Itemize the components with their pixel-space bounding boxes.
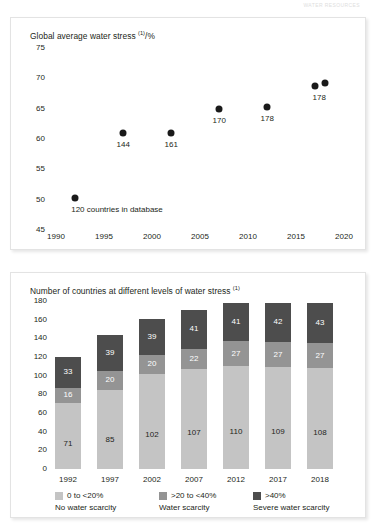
bar-segment-value: 43 <box>316 319 325 327</box>
bar-x-tick: 2012 <box>216 475 256 484</box>
scatter-title-text: Global average water stress <box>30 31 138 41</box>
scatter-point-label: 144 <box>117 140 130 149</box>
scatter-data-point <box>120 129 127 136</box>
legend-range-label: 0 to <20% <box>67 491 103 500</box>
bar-segment-value: 20 <box>148 360 157 368</box>
scatter-data-point <box>168 129 175 136</box>
bar-segment-value: 85 <box>106 436 115 444</box>
bar-segment: 22 <box>181 349 207 370</box>
scatter-chart-title: Global average water stress (1)/% <box>30 30 155 41</box>
bar-x-tick: 1997 <box>90 475 130 484</box>
bar-y-tick: 160 <box>21 315 47 324</box>
bar-y-tick: 0 <box>21 464 47 473</box>
bar-segment-value: 27 <box>274 351 283 359</box>
bar-segment-value: 41 <box>232 318 241 326</box>
legend-range-label: >20 to <40% <box>171 491 216 500</box>
scatter-y-tick: 55 <box>23 164 45 173</box>
bar-x-tick: 2002 <box>132 475 172 484</box>
bar-column: 1102741 <box>223 301 249 469</box>
bar-x-tick: 2018 <box>300 475 340 484</box>
bar-y-tick: 100 <box>21 371 47 380</box>
bar-segment: 85 <box>97 390 123 469</box>
legend-range-label: >40% <box>265 491 286 500</box>
bar-segment-value: 110 <box>230 428 243 436</box>
bar-segment-value: 39 <box>106 349 115 357</box>
bar-segment: 41 <box>181 310 207 348</box>
bar-segment: 42 <box>265 303 291 342</box>
bar-segment: 110 <box>223 366 249 469</box>
scatter-data-point <box>216 106 223 113</box>
bar-segment: 16 <box>55 388 81 403</box>
scatter-x-tick: 2005 <box>180 232 220 241</box>
scatter-x-tick: 2000 <box>132 232 172 241</box>
legend-category-label: Water scarcity <box>159 503 209 512</box>
bar-x-tick: 1992 <box>48 475 88 484</box>
bar-segment-value: 71 <box>64 440 73 448</box>
legend-color-swatch <box>55 492 63 500</box>
bar-segment: 27 <box>307 343 333 368</box>
bar-segment-value: 20 <box>106 376 115 384</box>
bar-y-tick: 180 <box>21 296 47 305</box>
bar-segment: 39 <box>139 319 165 355</box>
scatter-x-tick: 1990 <box>36 232 76 241</box>
bar-y-tick: 140 <box>21 333 47 342</box>
scatter-point-note: 120 countries in database <box>71 205 163 214</box>
scatter-data-point <box>264 104 271 111</box>
scatter-title-unit: /% <box>145 31 155 41</box>
bar-segment-value: 107 <box>187 429 200 437</box>
scatter-x-tick: 1995 <box>84 232 124 241</box>
bar-segment: 108 <box>307 368 333 469</box>
bar-column: 711633 <box>55 301 81 469</box>
legend-category-label: No water scarcity <box>55 503 116 512</box>
bar-segment: 43 <box>307 303 333 343</box>
bar-segment-value: 42 <box>274 318 283 326</box>
scatter-x-tick: 2020 <box>324 232 364 241</box>
bar-column: 1092742 <box>265 301 291 469</box>
bar-segment: 27 <box>265 342 291 367</box>
stacked-bar-chart-panel: Number of countries at different levels … <box>10 272 366 518</box>
bar-segment: 20 <box>97 371 123 390</box>
bar-column: 1072241 <box>181 301 207 469</box>
bar-segment-value: 33 <box>64 368 73 376</box>
bar-segment: 109 <box>265 367 291 469</box>
bar-segment: 20 <box>139 355 165 374</box>
bar-x-tick: 2017 <box>258 475 298 484</box>
bar-chart-title: Number of countries at different levels … <box>30 285 240 296</box>
bar-segment: 27 <box>223 341 249 366</box>
scatter-point-label: 178 <box>261 114 274 123</box>
scatter-y-tick: 60 <box>23 134 45 143</box>
bar-segment-value: 39 <box>148 333 157 341</box>
scatter-y-tick: 65 <box>23 104 45 113</box>
scatter-y-tick: 75 <box>23 43 45 52</box>
figure-page: WATER RESOURCES Global average water str… <box>0 0 376 529</box>
bar-y-tick: 60 <box>21 408 47 417</box>
bar-segment-value: 22 <box>190 355 199 363</box>
scatter-data-point <box>312 82 319 89</box>
legend-category-label: Severe water scarcity <box>253 503 329 512</box>
bar-segment-value: 27 <box>232 350 241 358</box>
scatter-data-point <box>321 80 328 87</box>
bar-segment-value: 102 <box>145 431 158 439</box>
scatter-title-footnote: (1) <box>138 30 145 36</box>
bar-segment-value: 109 <box>271 428 284 436</box>
bar-column: 1082743 <box>307 301 333 469</box>
scatter-x-tick: 2015 <box>276 232 316 241</box>
bar-segment: 107 <box>181 369 207 469</box>
legend-color-swatch <box>253 492 261 500</box>
bar-column: 852039 <box>97 301 123 469</box>
bar-segment-value: 16 <box>64 391 73 399</box>
bar-segment-value: 108 <box>313 429 326 437</box>
scatter-y-tick: 70 <box>23 73 45 82</box>
running-header: WATER RESOURCES <box>303 2 360 8</box>
bar-column: 1022039 <box>139 301 165 469</box>
bar-segment: 33 <box>55 357 81 388</box>
scatter-point-label: 170 <box>213 116 226 125</box>
bar-segment: 41 <box>223 303 249 341</box>
bar-y-tick: 120 <box>21 352 47 361</box>
scatter-y-tick: 50 <box>23 195 45 204</box>
bar-segment: 102 <box>139 374 165 469</box>
scatter-x-tick: 2010 <box>228 232 268 241</box>
bar-title-footnote: (1) <box>233 285 240 291</box>
scatter-chart-panel: Global average water stress (1)/% 757065… <box>10 17 366 250</box>
scatter-point-label: 178 <box>313 93 326 102</box>
